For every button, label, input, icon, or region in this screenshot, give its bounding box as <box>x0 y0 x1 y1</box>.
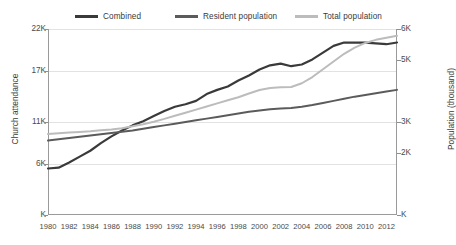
plot-area <box>48 29 397 215</box>
legend-label-combined: Combined <box>103 12 141 21</box>
y-axis-right-title: Population (thousand) <box>446 54 456 164</box>
y-axis-right-tick-label: 5K <box>401 55 411 64</box>
legend-item-combined[interactable]: Combined <box>75 9 141 23</box>
legend-label-resident-population: Resident population <box>203 12 277 21</box>
y-axis-right-tick-mark <box>397 153 401 154</box>
y-axis-left-tick-mark <box>44 215 48 216</box>
legend-swatch-total-population <box>295 15 318 18</box>
chart-legend: Combined Resident population Total popul… <box>0 9 449 27</box>
legend-item-total-population[interactable]: Total population <box>295 9 382 23</box>
x-axis-tick-label: 2012 <box>373 222 399 231</box>
legend-label-total-population: Total population <box>323 12 382 21</box>
series-lines <box>48 29 397 215</box>
y-axis-right-tick-label: 6K <box>401 24 411 33</box>
series-line-combined <box>48 43 397 169</box>
y-axis-right-tick-mark <box>397 122 401 123</box>
legend-swatch-resident-population <box>175 15 198 18</box>
y-axis-right-tick-mark <box>397 215 401 216</box>
series-line-total-population <box>48 36 397 134</box>
legend-item-resident-population[interactable]: Resident population <box>175 9 277 23</box>
series-line-resident-population <box>48 90 397 141</box>
y-axis-right-tick-mark <box>397 29 401 30</box>
y-axis-right-tick-mark <box>397 60 401 61</box>
y-axis-right-tick-label: 2K <box>401 148 411 157</box>
legend-swatch-combined <box>75 15 98 18</box>
y-axis-left-title: Church attendance <box>10 64 20 154</box>
y-axis-right-tick-label: 3K <box>401 117 411 126</box>
y-axis-right-tick-label: K <box>401 210 406 219</box>
